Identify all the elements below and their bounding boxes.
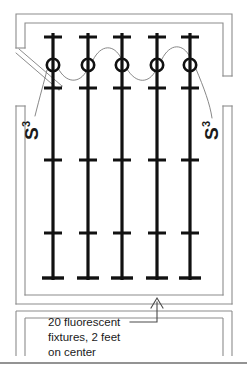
switch-label-right: S 3 <box>200 121 222 140</box>
spine-through-boxes <box>53 59 190 71</box>
switch-right-subscript: 3 <box>200 121 212 127</box>
wire-switch-right-feed <box>196 69 212 118</box>
switch-left-letter: S <box>21 127 42 140</box>
wire-segment-2 <box>93 48 121 60</box>
fixture-note: 20 fluorescent fixtures, 2 feet on cente… <box>48 316 121 358</box>
plan-canvas: S 3 S 3 20 fluorescent fixtures, 2 feet … <box>0 0 247 372</box>
switch-right-letter: S <box>201 127 222 140</box>
fixture-note-line-3: on center <box>48 346 96 358</box>
wire-segment-3 <box>127 69 156 80</box>
lighting-plan-figure: S 3 S 3 20 fluorescent fixtures, 2 feet … <box>0 0 247 372</box>
wire-segment-4 <box>162 47 190 59</box>
fixture-note-line-2: fixtures, 2 feet <box>48 331 121 343</box>
switch-label-left: S 3 <box>20 121 42 140</box>
wire-switch-left-feed <box>35 70 47 116</box>
fixture-note-line-1: 20 fluorescent <box>48 316 121 328</box>
switch-left-subscript: 3 <box>20 121 32 127</box>
